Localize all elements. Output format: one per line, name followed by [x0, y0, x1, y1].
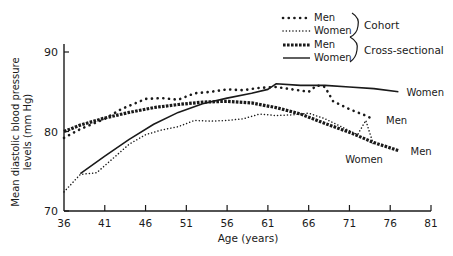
y-tick-label: 90 [44, 46, 58, 59]
legend-label-cross-men: Men [314, 39, 335, 50]
series-group [64, 84, 398, 192]
annotation-cross-sectional-women: Women [406, 87, 444, 98]
x-tick-label: 81 [424, 217, 437, 229]
legend-label-cohort-women: Women [314, 25, 352, 36]
y-tick-label: 70 [44, 205, 58, 218]
legend-label-cross-women: Women [314, 52, 352, 63]
annotation-cohort-women: Women [345, 154, 383, 165]
x-ticks: 36414651566166717681 [57, 205, 437, 229]
x-axis-label: Age (years) [218, 232, 279, 244]
x-tick-label: 51 [180, 217, 193, 229]
x-tick-label: 76 [384, 217, 398, 229]
axes: 708090 36414651566166717681 [44, 44, 438, 229]
series-cohort-men [64, 85, 374, 137]
annotation-cohort-men: Men [386, 115, 407, 126]
legend-group-cohort: Cohort [364, 19, 399, 31]
series-annotations: WomenMenMenWomen [345, 87, 444, 166]
legend-group-cross-sectional: Cross-sectional [364, 44, 444, 56]
y-axis-label: Mean diastolic blood pressure levels (mm… [10, 57, 33, 206]
legend: Men Women Men Women Cohort Cross-section… [283, 12, 444, 63]
x-tick-label: 71 [343, 217, 356, 229]
x-tick-label: 46 [139, 217, 153, 229]
x-tick-label: 56 [220, 217, 234, 229]
y-tick-label: 80 [44, 126, 58, 139]
x-tick-label: 61 [261, 217, 274, 229]
x-tick-label: 41 [98, 217, 111, 229]
x-tick-label: 66 [302, 217, 316, 229]
legend-label-cohort-men: Men [314, 12, 335, 23]
x-tick-label: 36 [57, 217, 71, 229]
annotation-cross-sectional-men: Men [411, 146, 432, 157]
y-axis-label-line1: Mean diastolic blood pressure [10, 57, 21, 206]
blood-pressure-line-chart: 708090 36414651566166717681 Age (years) … [0, 0, 453, 256]
y-axis-label-line2: levels (mm Hg) [22, 94, 33, 171]
